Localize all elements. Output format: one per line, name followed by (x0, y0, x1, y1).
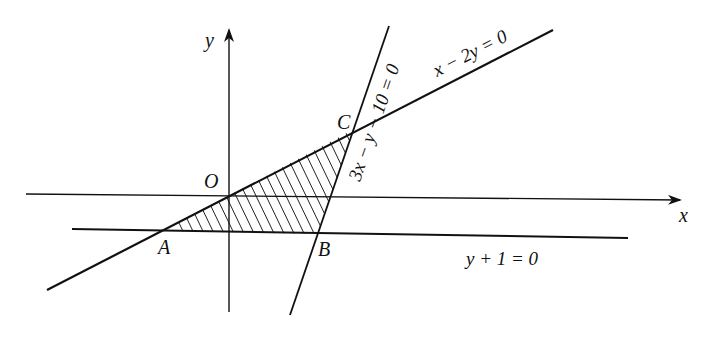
point-label-b: B (318, 238, 330, 260)
shaded-region (120, 100, 492, 250)
equation-label-y-plus-1: y + 1 = 0 (464, 248, 539, 269)
line-3x-minus-y-minus-10 (290, 26, 389, 315)
y-axis-label: y (203, 29, 214, 52)
point-label-a: A (156, 236, 171, 258)
hatch-line (390, 100, 462, 250)
hatch-line (410, 100, 482, 250)
equation-label-3x-minus-y-minus-10: 3x − y − 10 = 0 (344, 61, 404, 184)
point-label-c: C (337, 111, 351, 133)
x-axis (26, 194, 680, 200)
hatch-line (420, 100, 492, 250)
hatch-line (140, 100, 212, 250)
hatch-line (120, 100, 192, 250)
diagram: x y O A B C x − 2y = 0 3x − y − 10 = 0 y… (0, 0, 711, 339)
point-label-o: O (204, 170, 218, 192)
hatch-line (380, 100, 452, 250)
hatch-line (130, 100, 202, 250)
hatch-line (400, 100, 472, 250)
diagram-canvas: x y O A B C x − 2y = 0 3x − y − 10 = 0 y… (0, 0, 711, 339)
x-axis-label: x (678, 204, 688, 226)
